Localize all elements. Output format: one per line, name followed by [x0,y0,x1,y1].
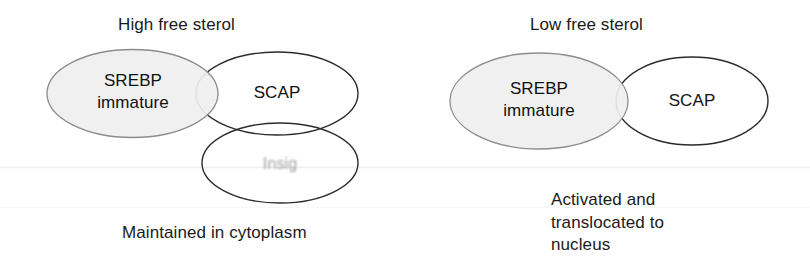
insig-line-1: Insig [245,154,315,174]
node-label-srebp-left: SREBP immature [62,70,204,114]
scap-right-line-1: SCAP [655,90,729,112]
caption-low-line-1: Activated and [551,189,664,212]
srebp-right-line-1: SREBP [468,78,610,100]
srebp-left-line-1: SREBP [62,70,204,92]
caption-high-sterol: Maintained in cytoplasm [122,222,307,245]
figure-root: High free sterol SREBP immature SCAP Ins… [0,0,810,272]
srebp-left-line-2: immature [62,92,204,114]
panel-title-high-sterol: High free sterol [118,15,235,35]
caption-low-line-3: nucleus [551,234,664,257]
caption-low-sterol: Activated and translocated to nucleus [551,189,664,257]
panel-title-low-sterol: Low free sterol [530,15,643,35]
node-label-insig: Insig [245,154,315,174]
caption-low-line-2: translocated to [551,212,664,235]
node-label-scap-right: SCAP [655,90,729,112]
node-label-srebp-right: SREBP immature [468,78,610,122]
srebp-right-line-2: immature [468,100,610,122]
scap-left-line-1: SCAP [240,82,314,104]
node-label-scap-left: SCAP [240,82,314,104]
